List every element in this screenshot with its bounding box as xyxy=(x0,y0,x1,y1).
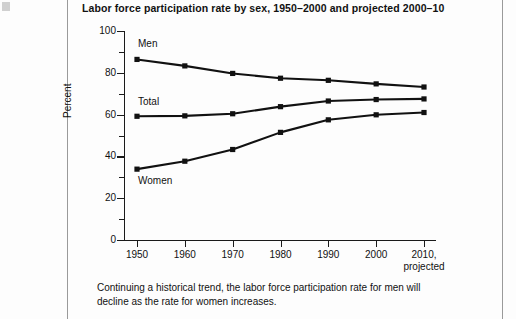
series-label-men: Men xyxy=(138,38,157,49)
figure-caption: Continuing a historical trend, the labor… xyxy=(97,281,427,308)
page-canvas: Labor force participation rate by sex, 1… xyxy=(0,0,516,319)
series-lines xyxy=(0,0,516,319)
marker-men-2010 xyxy=(421,84,426,89)
marker-men-1950 xyxy=(134,57,139,62)
series-label-total: Total xyxy=(138,96,159,107)
line-women xyxy=(137,113,424,170)
plot-area: 100 80 60 40 20 0 Percent 1950 1960 1970… xyxy=(0,0,516,319)
series-label-women: Women xyxy=(138,175,172,186)
marker-women-1960 xyxy=(182,159,187,164)
marker-women-2000 xyxy=(374,112,379,117)
marker-men-1970 xyxy=(230,71,235,76)
marker-total-2000 xyxy=(374,97,379,102)
marker-men-1960 xyxy=(182,63,187,68)
marker-total-1990 xyxy=(326,98,331,103)
marker-total-1960 xyxy=(182,113,187,118)
marker-total-2010 xyxy=(421,96,426,101)
marker-women-1990 xyxy=(326,117,331,122)
marker-women-2010 xyxy=(421,110,426,115)
marker-women-1980 xyxy=(278,130,283,135)
marker-men-1990 xyxy=(326,78,331,83)
marker-total-1980 xyxy=(278,104,283,109)
marker-men-2000 xyxy=(374,81,379,86)
marker-total-1950 xyxy=(134,114,139,119)
marker-men-1980 xyxy=(278,76,283,81)
line-men xyxy=(137,59,424,87)
marker-women-1950 xyxy=(134,167,139,172)
marker-women-1970 xyxy=(230,147,235,152)
marker-total-1970 xyxy=(230,111,235,116)
